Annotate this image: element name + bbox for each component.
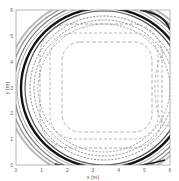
svg-text:6: 6 — [169, 167, 172, 173]
svg-text:3: 3 — [10, 85, 13, 91]
contour-plot: 0 1 2 3 4 5 6 x (m) 0 1 2 3 4 5 6 y (m) — [0, 0, 179, 181]
svg-text:3: 3 — [92, 167, 95, 173]
svg-text:2: 2 — [66, 167, 69, 173]
svg-text:0: 0 — [15, 167, 18, 173]
svg-text:0: 0 — [10, 162, 13, 168]
x-axis: 0 1 2 3 4 5 6 x (m) — [15, 167, 172, 180]
x-axis-label: x (m) — [87, 174, 100, 180]
y-axis: 0 1 2 3 4 5 6 y (m) — [4, 7, 13, 168]
svg-text:4: 4 — [117, 167, 120, 173]
svg-text:4: 4 — [10, 59, 13, 65]
contour-lines — [6, 0, 179, 180]
svg-text:1: 1 — [40, 167, 43, 173]
svg-text:5: 5 — [143, 167, 146, 173]
svg-text:1: 1 — [10, 136, 13, 142]
svg-text:5: 5 — [10, 33, 13, 39]
svg-text:6: 6 — [10, 7, 13, 13]
y-axis-label: y (m) — [4, 82, 10, 95]
svg-text:2: 2 — [10, 110, 13, 116]
